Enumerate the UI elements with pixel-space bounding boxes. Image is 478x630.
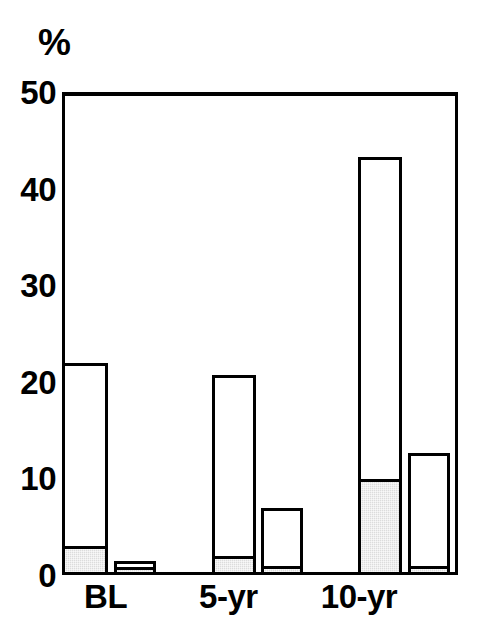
y-tick-0: 0 — [2, 559, 56, 592]
y-tick-50: 50 — [2, 76, 56, 109]
x-tick-5yr: 5-yr — [199, 580, 258, 613]
bars-layer — [62, 92, 458, 575]
bar-10-yr-1 — [358, 157, 402, 575]
x-tick-bl: BL — [84, 580, 127, 613]
bar-shaded-segment — [261, 566, 303, 575]
bar-shaded-segment — [408, 566, 450, 575]
bar-chart-figure: % 50 40 30 20 10 0 BL 5-yr 10-yr — [0, 0, 478, 630]
x-tick-10yr: 10-yr — [321, 580, 397, 613]
bar-bl-2 — [114, 561, 156, 575]
bar-shaded-segment — [358, 479, 402, 575]
bar-5-yr-1 — [212, 375, 256, 575]
x-axis-tick-labels: BL 5-yr 10-yr — [62, 580, 458, 626]
bar-shaded-segment — [114, 567, 156, 575]
bar-10-yr-2 — [408, 453, 450, 575]
bar-shaded-segment — [62, 546, 108, 575]
y-tick-20: 20 — [2, 365, 56, 398]
bar-bl-1 — [62, 363, 108, 575]
y-tick-40: 40 — [2, 172, 56, 205]
y-axis-unit-label: % — [38, 24, 70, 61]
bar-shaded-segment — [212, 556, 256, 575]
y-axis-tick-labels: 50 40 30 20 10 0 — [0, 92, 56, 575]
bar-5-yr-2 — [261, 508, 303, 575]
y-tick-30: 30 — [2, 269, 56, 302]
y-tick-10: 10 — [2, 462, 56, 495]
